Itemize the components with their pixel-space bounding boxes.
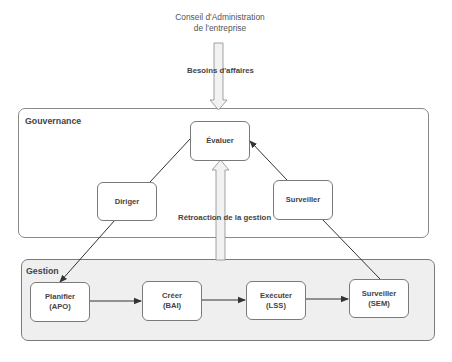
node-run-code: (LSS) (266, 301, 286, 311)
node-monitor[interactable]: Surveiller (273, 180, 333, 220)
node-build-name: Créer (162, 291, 182, 301)
management-title: Gestion (26, 266, 59, 276)
node-evaluate-label: Évaluer (206, 136, 233, 146)
node-direct-label: Diriger (115, 197, 139, 207)
board-line-2: de l'entreprise (150, 23, 290, 34)
governance-title: Gouvernance (25, 116, 81, 126)
node-plan-name: Planifier (45, 292, 75, 302)
node-monitor-sem[interactable]: Surveiller (SEM) (349, 279, 409, 318)
node-plan-code: (APO) (49, 302, 71, 312)
node-plan-apo[interactable]: Planifier (APO) (30, 282, 90, 322)
node-run-lss[interactable]: Exécuter (LSS) (246, 281, 306, 320)
node-sem-code: (SEM) (368, 299, 390, 309)
node-direct[interactable]: Diriger (97, 182, 157, 221)
board-of-directors-label: Conseil d'Administration de l'entreprise (150, 12, 290, 34)
feedback-label: Rétroaction de la gestion (178, 213, 271, 222)
node-sem-name: Surveiller (362, 289, 397, 299)
node-build-code: (BAI) (163, 301, 181, 311)
business-needs-label: Besoins d'affaires (187, 66, 254, 75)
business-needs-arrow (210, 43, 227, 110)
board-line-1: Conseil d'Administration (150, 12, 290, 23)
node-monitor-label: Surveiller (286, 195, 321, 205)
node-run-name: Exécuter (260, 291, 292, 301)
node-evaluate[interactable]: Évaluer (190, 121, 250, 161)
node-build-bai[interactable]: Créer (BAI) (142, 281, 202, 321)
